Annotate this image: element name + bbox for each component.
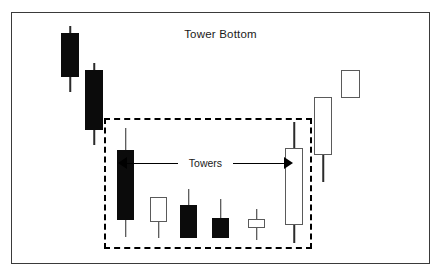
candlestick-6-body <box>212 218 229 238</box>
candlestick-10 <box>341 70 360 98</box>
candlestick-7 <box>248 209 265 240</box>
candlestick-7-body <box>248 219 265 228</box>
candlestick-5-body <box>180 205 197 238</box>
towers-annotation: Towers <box>118 152 293 174</box>
candlestick-9 <box>314 97 332 182</box>
candlestick-2 <box>85 63 103 145</box>
candlestick-9-body <box>314 97 332 155</box>
candlestick-6 <box>212 199 229 238</box>
candlestick-1-body <box>61 33 79 77</box>
arrow-head-right-icon <box>284 157 293 169</box>
candlestick-4 <box>150 197 167 238</box>
candlestick-2-body <box>85 70 103 130</box>
arrow-line-right <box>233 163 285 165</box>
candlestick-3 <box>117 128 134 237</box>
candlestick-8 <box>285 122 303 243</box>
candlestick-10-body <box>341 70 360 98</box>
candlestick-5 <box>180 189 197 238</box>
candlestick-diagram: Tower Bottom Towers <box>0 0 441 277</box>
candlestick-4-body <box>150 197 167 222</box>
candlestick-1 <box>61 26 79 92</box>
pattern-highlight-box <box>104 118 312 249</box>
